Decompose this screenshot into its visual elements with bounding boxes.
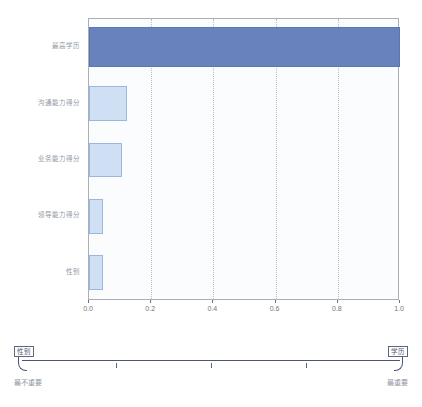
bars-layer (89, 19, 398, 299)
x-axis-tick-label: 1.0 (394, 304, 404, 313)
y-axis-label: 性别 (0, 268, 80, 276)
bar-row (89, 27, 398, 66)
x-axis-tick-label: 0.4 (208, 304, 218, 313)
x-axis-tick (88, 300, 89, 303)
x-axis-tick (399, 300, 400, 303)
scale-cap-left-icon (18, 356, 27, 371)
bar-领导能力得分 (89, 199, 103, 234)
y-axis-label: 领导能力得分 (0, 211, 80, 219)
plot-area (88, 18, 399, 300)
x-axis-tick (337, 300, 338, 303)
bar-row (89, 86, 398, 121)
y-axis-label: 最高学历 (0, 42, 80, 50)
scale-endlabel-left: 最不重要 (14, 378, 42, 388)
bar-性别 (89, 255, 103, 290)
x-axis-tick (212, 300, 213, 303)
bar-row (89, 143, 398, 178)
scale-tick (211, 363, 212, 368)
scale-endlabel-right: 最重要 (387, 378, 408, 388)
x-axis-tick-label: 0.0 (83, 304, 93, 313)
importance-scale: 性别 学历 最不重要 最重要 (0, 336, 422, 402)
scale-tick (116, 363, 117, 368)
bar-最高学历 (89, 27, 400, 66)
x-axis-tick-label: 0.2 (145, 304, 155, 313)
scale-cap-right-icon (394, 356, 403, 371)
variable-importance-chart: 最高学历 沟通能力得分 业务能力得分 领导能力得分 性别 0.00.20.40.… (0, 0, 422, 330)
x-axis: 0.00.20.40.60.81.0 (88, 300, 399, 322)
scale-tick (306, 363, 307, 368)
x-axis-tick (150, 300, 151, 303)
x-axis-tick (275, 300, 276, 303)
y-axis-label: 业务能力得分 (0, 155, 80, 163)
bar-沟通能力得分 (89, 86, 127, 121)
x-axis-tick-label: 0.6 (270, 304, 280, 313)
x-axis-tick-label: 0.8 (332, 304, 342, 313)
bar-row (89, 199, 398, 234)
scale-marker-most-important[interactable]: 学历 (388, 346, 408, 357)
bar-业务能力得分 (89, 143, 122, 178)
bar-row (89, 255, 398, 290)
y-axis-label: 沟通能力得分 (0, 99, 80, 107)
scale-marker-least-important[interactable]: 性别 (14, 346, 34, 357)
scale-axis-line (22, 360, 400, 361)
y-axis-labels: 最高学历 沟通能力得分 业务能力得分 领导能力得分 性别 (0, 18, 84, 300)
